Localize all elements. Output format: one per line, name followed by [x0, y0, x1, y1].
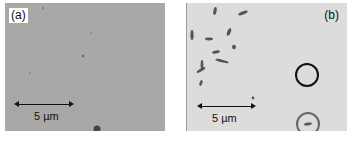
panel-label-b: (b) [322, 8, 341, 23]
micrograph-a-specks [5, 3, 165, 131]
panel-label-a: (a) [9, 8, 28, 23]
scale-bar-label-a: 5 µm [34, 110, 59, 122]
micrograph-panel-a: (a) 5 µm [5, 3, 165, 131]
scale-bar-label-b: 5 µm [212, 112, 237, 124]
micrograph-panel-b: (b) 5 µm [186, 3, 347, 131]
